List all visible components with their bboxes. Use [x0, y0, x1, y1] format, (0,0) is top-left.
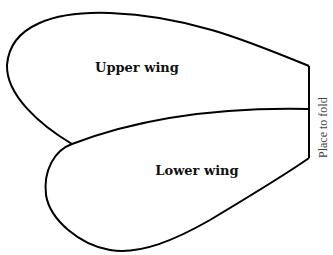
wing-template-diagram: Upper wing Lower wing Place to fold	[0, 0, 333, 255]
lower-wing-label: Lower wing	[155, 163, 238, 178]
lower-wing-outline	[46, 144, 309, 251]
upper-wing-outline	[7, 13, 309, 144]
upper-wing-label: Upper wing	[95, 60, 179, 75]
fold-label: Place to fold	[316, 97, 330, 158]
